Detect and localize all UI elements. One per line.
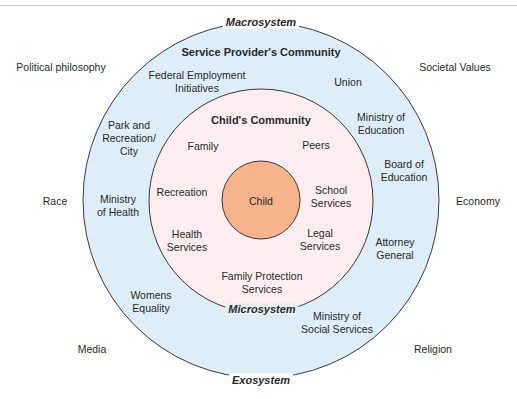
child-label: Child	[249, 195, 273, 208]
factor-race: Race	[43, 195, 68, 208]
exo-board-education-line2: Education	[381, 171, 428, 184]
exo-federal-employment-line1: Federal Employment	[149, 69, 246, 82]
exo-ministry-health-line2: of Health	[97, 206, 139, 219]
micro-school-services: School Services	[311, 184, 351, 210]
microsystem-label: Microsystem	[225, 303, 298, 316]
factor-religion: Religion	[414, 343, 452, 356]
micro-recreation: Recreation	[157, 186, 208, 199]
exo-ministry-health: Ministry of Health	[97, 193, 139, 219]
exo-union: Union	[334, 76, 361, 89]
micro-legal-line2: Services	[300, 240, 340, 253]
micro-peers: Peers	[302, 139, 329, 152]
exo-attorney-line2: General	[375, 249, 414, 262]
exo-ministry-social-services: Ministry of Social Services	[301, 310, 373, 336]
exo-attorney-general: Attorney General	[375, 236, 414, 262]
micro-family-protection-line2: Services	[221, 283, 302, 296]
exo-board-education-line1: Board of	[381, 158, 428, 171]
exo-federal-employment: Federal Employment Initiatives	[149, 69, 246, 95]
exo-ministry-education-line2: Education	[357, 124, 405, 137]
exo-womens-equality: Womens Equality	[130, 289, 171, 315]
micro-school-line1: School	[311, 184, 351, 197]
micro-family-protection: Family Protection Services	[221, 270, 302, 296]
micro-health-line1: Health	[167, 228, 207, 241]
exo-social-services-line1: Ministry of	[301, 310, 373, 323]
exo-attorney-line1: Attorney	[375, 236, 414, 249]
micro-health-services: Health Services	[167, 228, 207, 254]
factor-societal-values: Societal Values	[419, 61, 491, 74]
exo-park-recreation: Park and Recreation/ City	[102, 119, 156, 158]
exo-ministry-education-line1: Ministry of	[357, 111, 405, 124]
micro-legal-services: Legal Services	[300, 227, 340, 253]
microsystem-title: Child's Community	[211, 114, 311, 127]
exo-ministry-health-line1: Ministry	[97, 193, 139, 206]
factor-political-philosophy: Political philosophy	[16, 61, 105, 74]
micro-legal-line1: Legal	[300, 227, 340, 240]
exo-womens-line1: Womens	[130, 289, 171, 302]
exosystem-title: Service Provider's Community	[181, 46, 340, 59]
exo-board-education: Board of Education	[381, 158, 428, 184]
exo-womens-line2: Equality	[130, 302, 171, 315]
factor-economy: Economy	[456, 195, 500, 208]
exo-ministry-education: Ministry of Education	[357, 111, 405, 137]
factor-media: Media	[78, 343, 107, 356]
macrosystem-label: Macrosystem	[223, 16, 299, 29]
exo-park-line2: Recreation/	[102, 132, 156, 145]
exo-park-line1: Park and	[102, 119, 156, 132]
exo-social-services-line2: Social Services	[301, 323, 373, 336]
micro-health-line2: Services	[167, 241, 207, 254]
exosystem-label: Exosystem	[229, 374, 293, 387]
micro-family-protection-line1: Family Protection	[221, 270, 302, 283]
exo-federal-employment-line2: Initiatives	[149, 82, 246, 95]
micro-family: Family	[188, 140, 219, 153]
micro-school-line2: Services	[311, 197, 351, 210]
exo-park-line3: City	[102, 145, 156, 158]
